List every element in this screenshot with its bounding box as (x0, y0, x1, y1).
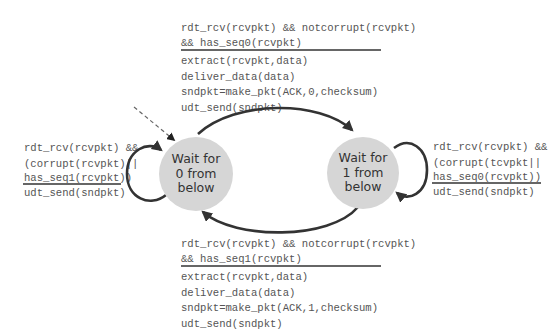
state-wait-for-1: Wait for 1 from below (327, 137, 399, 209)
state-wait0-line-3: below (178, 180, 215, 195)
right-condition-line-2: (corrupt(tcvpkt|| (433, 157, 541, 169)
state-wait1-line-2: 1 from (342, 165, 383, 180)
state-wait0-line-1: Wait for (172, 151, 222, 166)
bottom-action-2: deliver_data(data) (181, 287, 295, 299)
transition-right-self-label: rdt_rcv(rcvpkt) && (corrupt(tcvpkt|| has… (432, 141, 548, 198)
bottom-action-1: extract(rcvpkt,data) (181, 271, 308, 283)
top-condition-line-2: && has_seq0(rcvpkt) (181, 37, 302, 49)
state-wait-for-0: Wait for 0 from below (159, 137, 233, 211)
right-condition-line-1: rdt_rcv(rcvpkt) && (433, 141, 548, 153)
bottom-action-4: udt_send(sndpkt) (181, 318, 283, 330)
top-condition-line-1: rdt_rcv(rcvpkt) && notcorrupt(rcvpkt) (181, 22, 416, 34)
bottom-action-3: sndpkt=make_pkt(ACK,1,checksum) (181, 302, 378, 314)
left-condition-line-1: rdt_rcv(rcvpkt) && (24, 142, 139, 154)
state-wait1-line-1: Wait for (339, 150, 389, 165)
transition-top-label: rdt_rcv(rcvpkt) && notcorrupt(rcvpkt) &&… (181, 22, 416, 114)
top-action-3: sndpkt=make_pkt(ACK,0,checksum) (181, 86, 378, 98)
bottom-condition-line-2: && has_seq1(rcvpkt) (181, 253, 302, 265)
self-loop-wait1 (394, 143, 427, 196)
state-wait1-line-3: below (345, 179, 382, 194)
fsm-diagram: rdt_rcv(rcvpkt) && notcorrupt(rcvpkt) &&… (0, 0, 554, 335)
bottom-condition-line-1: rdt_rcv(rcvpkt) && notcorrupt(rcvpkt) (181, 238, 416, 250)
top-action-2: deliver_data(data) (181, 71, 295, 83)
initial-state-arrow (134, 107, 174, 140)
left-condition-line-2: (corrupt(rcvpkt)|| (24, 158, 138, 170)
left-condition-line-3: has_seq1(rcvpkt)) (24, 172, 132, 184)
right-condition-line-3: has_seq0(rcvpkt)) (433, 171, 541, 183)
state-wait0-line-2: 0 from (175, 166, 216, 181)
right-action-1: udt_send(sndpkt) (433, 186, 535, 198)
transition-bottom-label: rdt_rcv(rcvpkt) && notcorrupt(rcvpkt) &&… (181, 238, 416, 330)
left-action-1: udt_send(sndpkt) (24, 187, 126, 199)
transition-left-self-label: rdt_rcv(rcvpkt) && (corrupt(rcvpkt)|| ha… (23, 142, 139, 199)
top-action-1: extract(rcvpkt,data) (181, 55, 308, 67)
arc-wait1-to-wait0 (203, 207, 358, 232)
